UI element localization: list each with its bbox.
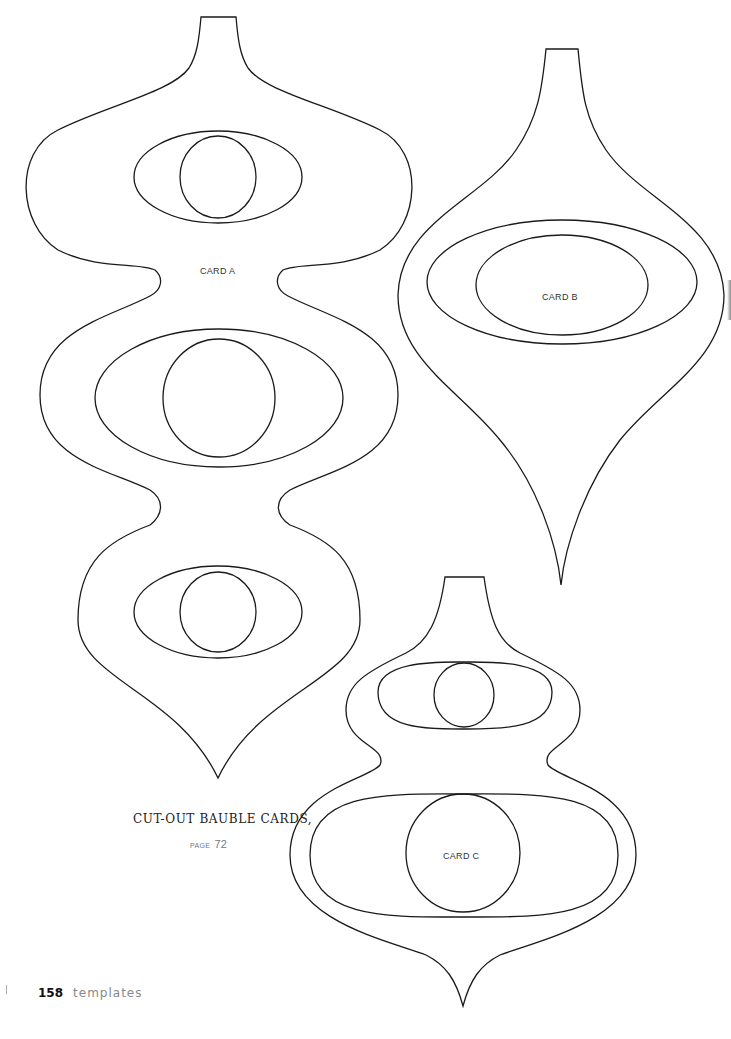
card-a-middle-ring (95, 329, 343, 467)
page-number: 158 (38, 986, 63, 1000)
card-a-bottom-hole (180, 572, 256, 652)
caption-title: CUT-OUT BAUBLE CARDS, (133, 812, 312, 826)
card-c-label: CARD C (443, 851, 479, 861)
card-a-bottom-ring (134, 566, 302, 658)
card-b-inner-ring (476, 235, 648, 335)
card-c-top-hole (434, 663, 494, 727)
card-c-top-ring (378, 662, 552, 729)
card-c-outer-outline (290, 577, 636, 1006)
card-a-middle-hole (163, 339, 275, 457)
card-a-top-ring (134, 131, 302, 223)
card-a-top-hole (180, 136, 256, 218)
card-a-label: CARD A (200, 266, 235, 276)
page-binding-shadow (727, 280, 731, 320)
card-b-outer-ring (427, 220, 697, 344)
section-name: templates (73, 986, 142, 1000)
caption-page-label: PAGE (190, 842, 210, 849)
card-b-template (398, 49, 724, 585)
card-b-outer-outline (398, 49, 724, 585)
bauble-templates-artwork (0, 0, 731, 1039)
card-c-template (290, 577, 636, 1006)
card-b-label: CARD B (542, 292, 578, 302)
page-footer: 158 templates (38, 983, 142, 1001)
card-a-template (26, 17, 412, 778)
caption-page-number: 72 (215, 838, 227, 850)
caption-page-reference: PAGE 72 (190, 834, 227, 852)
page-edge-mark (6, 985, 7, 994)
